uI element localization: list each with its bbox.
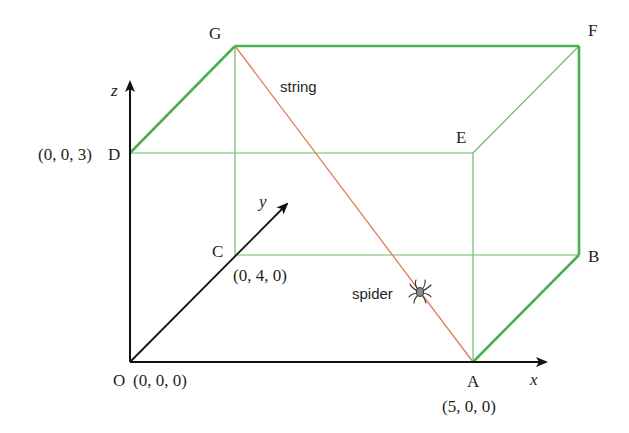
z-axis-label: z	[110, 81, 118, 100]
edge-BA	[473, 255, 579, 362]
vertex-F-label: F	[588, 21, 597, 40]
vertex-G-label: G	[209, 24, 221, 43]
spider-label: spider	[352, 285, 393, 302]
edge-DG	[130, 46, 235, 153]
spider-icon	[409, 280, 431, 303]
vertex-C-coord: (0, 4, 0)	[233, 266, 287, 285]
cuboid-diagram: z x y G F E B C D A O (0, 0, 3) (0, 4, 0…	[0, 0, 629, 433]
vertex-C-label: C	[212, 242, 223, 261]
edge-EF	[473, 46, 579, 153]
y-axis-label: y	[257, 192, 267, 211]
string-label: string	[280, 78, 317, 95]
vertex-E-label: E	[456, 128, 466, 147]
vertex-D-coord: (0, 0, 3)	[38, 145, 92, 164]
axes	[130, 82, 546, 362]
vertex-O-label: O	[113, 371, 125, 390]
vertex-B-label: B	[588, 247, 599, 266]
vertex-A-label: A	[467, 372, 480, 391]
x-axis-label: x	[529, 370, 538, 389]
vertex-A-coord: (5, 0, 0)	[442, 397, 496, 416]
string-GA	[235, 46, 473, 362]
vertex-O-coord: (0, 0, 0)	[133, 371, 187, 390]
vertex-D-label: D	[108, 145, 120, 164]
